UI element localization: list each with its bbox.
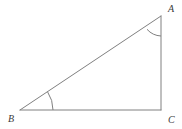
vertex-label-c: C <box>168 114 175 125</box>
geometry-figure: A B C <box>0 0 182 129</box>
vertex-label-a: A <box>167 3 175 14</box>
vertex-label-b: B <box>8 113 14 124</box>
triangle-diagram: A B C <box>0 0 182 129</box>
